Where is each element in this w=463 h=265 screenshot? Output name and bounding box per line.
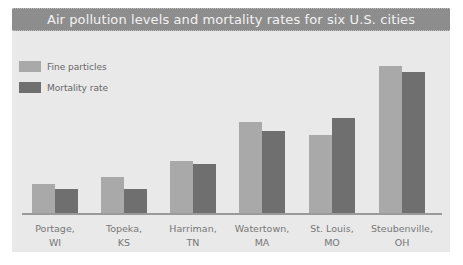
x-tick-label: Steubenville,OH [367, 222, 437, 250]
x-tick-label-line: Steubenville, [367, 222, 437, 236]
x-tick-label: St. Louis,MO [297, 222, 367, 250]
x-tick-label-line: Harriman, [158, 222, 228, 236]
bar-fine-particles [239, 122, 262, 213]
bar-mortality-rate [332, 118, 355, 213]
x-tick-label-line: Watertown, [227, 222, 297, 236]
bar-fine-particles [379, 66, 402, 213]
bar-mortality-rate [262, 131, 285, 213]
x-tick-label: Portage,WI [20, 222, 90, 250]
x-tick-label-line: WI [20, 236, 90, 250]
x-tick-label-line: MO [297, 236, 367, 250]
x-tick-label-line: Portage, [20, 222, 90, 236]
x-tick-label-line: St. Louis, [297, 222, 367, 236]
bar-fine-particles [309, 135, 332, 213]
x-tick-label: Topeka,KS [89, 222, 159, 250]
x-tick-label-line: Topeka, [89, 222, 159, 236]
bar-fine-particles [170, 161, 193, 213]
x-axis-line [22, 213, 442, 215]
bar-mortality-rate [402, 72, 425, 213]
bar-mortality-rate [193, 164, 216, 213]
x-tick-label-line: KS [89, 236, 159, 250]
x-tick-label: Watertown,MA [227, 222, 297, 250]
bar-fine-particles [32, 184, 55, 213]
plot-area: Portage,WITopeka,KSHarriman,TNWatertown,… [0, 0, 463, 265]
x-tick-label-line: OH [367, 236, 437, 250]
bar-fine-particles [101, 177, 124, 213]
bar-mortality-rate [55, 189, 78, 213]
x-tick-label-line: MA [227, 236, 297, 250]
x-tick-label: Harriman,TN [158, 222, 228, 250]
bar-mortality-rate [124, 189, 147, 213]
x-tick-label-line: TN [158, 236, 228, 250]
